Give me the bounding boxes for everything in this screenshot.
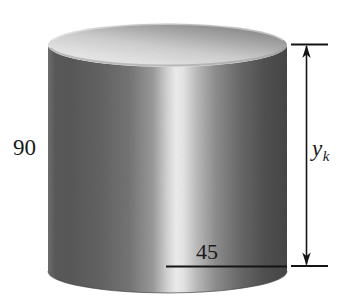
cylinder-figure: 90 45 yk [0,0,349,304]
cylinder-drawing [0,0,349,304]
slice-height-variable-label: yk [312,137,329,164]
cylinder-lateral-surface [48,45,287,293]
cylinder-radius-label: 45 [196,241,218,263]
variable-subscript: k [323,148,330,164]
cylinder-solid [48,24,287,294]
cylinder-height-label: 90 [13,136,36,159]
variable-symbol: y [312,136,322,161]
